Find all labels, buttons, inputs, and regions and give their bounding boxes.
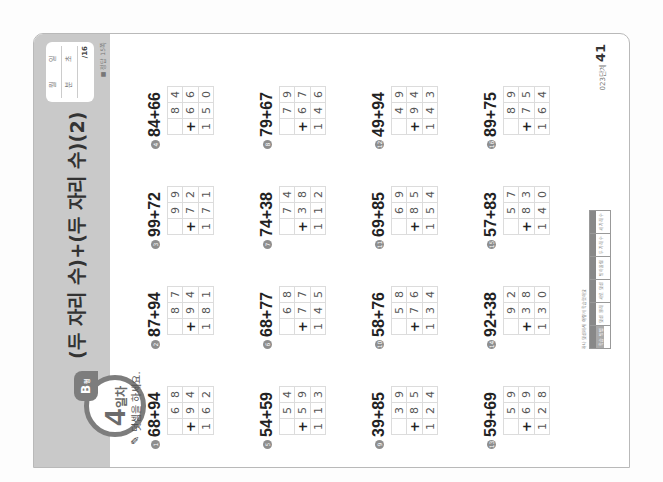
answer-cell[interactable]: 1 bbox=[199, 419, 214, 435]
answer-cell[interactable]: 4 bbox=[535, 87, 550, 103]
digit-cell[interactable]: 4 bbox=[407, 87, 423, 103]
answer-cell[interactable]: 3 bbox=[423, 303, 438, 319]
digit-cell[interactable]: 8 bbox=[519, 203, 535, 219]
digit-cell[interactable]: 5 bbox=[407, 387, 423, 403]
digit-cell[interactable]: 6 bbox=[407, 287, 423, 303]
digit-cell[interactable]: 5 bbox=[392, 303, 407, 319]
digit-cell[interactable] bbox=[392, 319, 407, 335]
digit-cell[interactable]: 3 bbox=[519, 303, 535, 319]
answer-cell[interactable]: 6 bbox=[535, 103, 550, 119]
digit-cell[interactable] bbox=[392, 219, 407, 235]
digit-cell[interactable]: 8 bbox=[392, 287, 407, 303]
digit-cell[interactable]: 6 bbox=[295, 103, 311, 119]
digit-cell[interactable]: 6 bbox=[519, 403, 535, 419]
digit-cell[interactable]: 8 bbox=[407, 403, 423, 419]
digit-cell[interactable]: 9 bbox=[168, 187, 183, 203]
answer-cell[interactable]: 1 bbox=[199, 219, 214, 235]
answer-cell[interactable]: 1 bbox=[311, 403, 326, 419]
digit-cell[interactable]: 9 bbox=[183, 303, 199, 319]
answer-cell[interactable]: 0 bbox=[199, 87, 214, 103]
digit-cell[interactable]: 9 bbox=[295, 387, 311, 403]
digit-cell[interactable]: 7 bbox=[504, 187, 519, 203]
digit-cell[interactable]: 3 bbox=[519, 187, 535, 203]
digit-cell[interactable]: 7 bbox=[280, 103, 295, 119]
digit-cell[interactable]: 9 bbox=[504, 87, 519, 103]
answer-cell[interactable]: 1 bbox=[199, 319, 214, 335]
digit-cell[interactable] bbox=[168, 419, 183, 435]
digit-cell[interactable] bbox=[168, 319, 183, 335]
digit-cell[interactable]: 4 bbox=[183, 287, 199, 303]
digit-cell[interactable]: 8 bbox=[168, 303, 183, 319]
answer-cell[interactable]: 0 bbox=[535, 187, 550, 203]
digit-cell[interactable]: 3 bbox=[295, 203, 311, 219]
answer-cell[interactable]: 1 bbox=[535, 119, 550, 135]
answer-cell[interactable]: 7 bbox=[199, 203, 214, 219]
digit-cell[interactable]: 8 bbox=[295, 187, 311, 203]
digit-cell[interactable]: 9 bbox=[504, 303, 519, 319]
digit-cell[interactable]: 4 bbox=[392, 103, 407, 119]
answer-cell[interactable]: 1 bbox=[311, 419, 326, 435]
digit-cell[interactable]: 6 bbox=[280, 303, 295, 319]
digit-cell[interactable] bbox=[280, 119, 295, 135]
answer-cell[interactable]: 1 bbox=[535, 419, 550, 435]
answer-cell[interactable]: 1 bbox=[199, 119, 214, 135]
answer-cell[interactable]: 6 bbox=[311, 87, 326, 103]
digit-cell[interactable]: 8 bbox=[407, 203, 423, 219]
digit-cell[interactable] bbox=[280, 419, 295, 435]
answer-cell[interactable]: 6 bbox=[199, 403, 214, 419]
digit-cell[interactable]: 4 bbox=[168, 87, 183, 103]
digit-cell[interactable]: 7 bbox=[183, 203, 199, 219]
digit-cell[interactable]: 5 bbox=[280, 403, 295, 419]
answer-cell[interactable]: 2 bbox=[535, 403, 550, 419]
digit-cell[interactable]: 8 bbox=[280, 287, 295, 303]
digit-cell[interactable]: 7 bbox=[168, 287, 183, 303]
answer-cell[interactable]: 4 bbox=[423, 387, 438, 403]
answer-cell[interactable]: 1 bbox=[199, 187, 214, 203]
digit-cell[interactable]: 6 bbox=[392, 203, 407, 219]
digit-cell[interactable] bbox=[504, 319, 519, 335]
digit-cell[interactable]: 5 bbox=[504, 203, 519, 219]
answer-cell[interactable]: 0 bbox=[535, 287, 550, 303]
digit-cell[interactable] bbox=[168, 219, 183, 235]
answer-cell[interactable]: 1 bbox=[199, 287, 214, 303]
digit-cell[interactable]: 5 bbox=[504, 403, 519, 419]
digit-cell[interactable]: 8 bbox=[504, 103, 519, 119]
digit-cell[interactable]: 9 bbox=[519, 387, 535, 403]
answer-cell[interactable]: 1 bbox=[423, 319, 438, 335]
digit-cell[interactable]: 9 bbox=[168, 203, 183, 219]
answer-cell[interactable]: 4 bbox=[535, 203, 550, 219]
answer-cell[interactable]: 8 bbox=[199, 303, 214, 319]
digit-cell[interactable]: 7 bbox=[519, 103, 535, 119]
digit-cell[interactable]: 9 bbox=[392, 87, 407, 103]
digit-cell[interactable] bbox=[168, 119, 183, 135]
digit-cell[interactable]: 7 bbox=[295, 87, 311, 103]
digit-cell[interactable]: 5 bbox=[407, 187, 423, 203]
digit-cell[interactable] bbox=[280, 219, 295, 235]
answer-cell[interactable]: 1 bbox=[423, 219, 438, 235]
digit-cell[interactable] bbox=[504, 419, 519, 435]
digit-cell[interactable]: 8 bbox=[168, 103, 183, 119]
answer-cell[interactable]: 2 bbox=[199, 387, 214, 403]
answer-cell[interactable]: 1 bbox=[535, 219, 550, 235]
answer-cell[interactable]: 8 bbox=[535, 387, 550, 403]
digit-cell[interactable] bbox=[392, 419, 407, 435]
digit-cell[interactable]: 9 bbox=[392, 187, 407, 203]
digit-cell[interactable]: 4 bbox=[183, 387, 199, 403]
answer-cell[interactable]: 3 bbox=[535, 303, 550, 319]
answer-cell[interactable]: 4 bbox=[423, 187, 438, 203]
answer-cell[interactable]: 5 bbox=[199, 103, 214, 119]
digit-cell[interactable]: 9 bbox=[183, 403, 199, 419]
digit-cell[interactable]: 9 bbox=[504, 387, 519, 403]
answer-cell[interactable]: 1 bbox=[423, 119, 438, 135]
answer-cell[interactable]: 1 bbox=[311, 119, 326, 135]
digit-cell[interactable]: 5 bbox=[295, 403, 311, 419]
digit-cell[interactable]: 7 bbox=[280, 203, 295, 219]
answer-cell[interactable]: 1 bbox=[311, 319, 326, 335]
answer-cell[interactable]: 2 bbox=[423, 403, 438, 419]
answer-cell[interactable]: 2 bbox=[311, 187, 326, 203]
answer-cell[interactable]: 3 bbox=[423, 87, 438, 103]
answer-cell[interactable]: 1 bbox=[311, 219, 326, 235]
digit-cell[interactable]: 8 bbox=[519, 287, 535, 303]
digit-cell[interactable]: 2 bbox=[504, 287, 519, 303]
answer-cell[interactable]: 4 bbox=[311, 103, 326, 119]
